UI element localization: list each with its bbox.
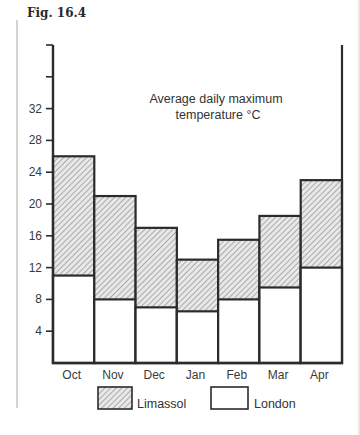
bar-chart: 48121620242832 OctNovDecJanFebMarApr Ave… — [0, 0, 360, 435]
chart-annotation-line2: temperature °C — [176, 108, 261, 122]
x-tick-label-oct: Oct — [62, 368, 81, 382]
y-tick-label: 20 — [29, 197, 43, 211]
bar-london-oct — [53, 276, 94, 363]
x-tick-label-dec: Dec — [144, 368, 165, 382]
y-tick-label: 28 — [29, 133, 43, 147]
x-tick-label-mar: Mar — [268, 368, 289, 382]
bar-london-jan — [177, 311, 218, 363]
chart-annotation-line1: Average daily maximum — [149, 92, 282, 106]
bar-london-feb — [218, 299, 259, 363]
bar-london-apr — [301, 268, 342, 363]
legend: Limassol London — [98, 387, 296, 411]
y-tick-label: 8 — [35, 292, 42, 306]
legend-swatch-limassol — [98, 387, 132, 409]
bars-group — [53, 156, 342, 363]
y-tick-label: 4 — [35, 324, 42, 338]
y-tick-label: 24 — [29, 165, 43, 179]
x-tick-label-feb: Feb — [226, 368, 247, 382]
y-tick-label: 16 — [29, 229, 43, 243]
legend-label-london: London — [254, 397, 296, 411]
bar-london-dec — [136, 307, 177, 363]
y-tick-label: 32 — [29, 102, 43, 116]
legend-swatch-london — [211, 387, 248, 409]
x-tick-label-jan: Jan — [186, 368, 205, 382]
y-axis-ticks: 48121620242832 — [29, 45, 53, 338]
x-tick-label-nov: Nov — [102, 368, 123, 382]
bar-london-nov — [94, 299, 135, 363]
x-tick-label-apr: Apr — [310, 368, 329, 382]
y-tick-label: 12 — [29, 261, 43, 275]
x-axis-labels: OctNovDecJanFebMarApr — [62, 368, 328, 382]
legend-label-limassol: Limassol — [137, 397, 186, 411]
bar-london-mar — [259, 287, 300, 363]
